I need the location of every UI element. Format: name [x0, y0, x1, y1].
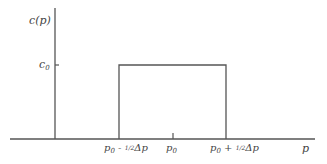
tick-op: - — [115, 142, 125, 153]
tick-delta: Δp — [134, 142, 148, 153]
rectangular-pulse — [119, 65, 226, 139]
diagram: c(p) c0 p0 - 1/2Δp p0 p0 + 1/2Δp p — [0, 0, 327, 164]
tick-delta: Δp — [245, 142, 259, 153]
x-axis-label: p — [302, 143, 309, 154]
tick-frac: 1/2 — [125, 145, 135, 151]
tick-sub: 0 — [172, 147, 176, 155]
tick-frac: 1/2 — [236, 145, 246, 151]
x-tick-center-label: p0 — [166, 143, 177, 155]
x-tick-left-label: p0 - 1/2Δp — [104, 143, 148, 155]
c0-label: c0 — [39, 59, 50, 72]
y-axis-label: c(p) — [29, 15, 51, 26]
x-tick-right-label: p0 + 1/2Δp — [210, 143, 259, 155]
c0-sub: 0 — [45, 64, 49, 72]
tick-op: + — [221, 142, 236, 153]
